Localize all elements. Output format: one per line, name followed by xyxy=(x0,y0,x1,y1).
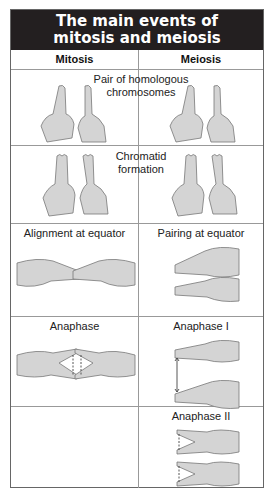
divider xyxy=(11,145,263,146)
title-line-1: The main events of xyxy=(11,13,263,30)
caption-anaphase-ii: Anaphase II xyxy=(139,410,263,423)
hands-single-finger-icon xyxy=(166,82,246,144)
hands-v-pairs-icon xyxy=(171,428,241,488)
caption-pairing-at-equator: Pairing at equator xyxy=(139,227,263,240)
hands-single-finger-icon xyxy=(37,82,117,144)
hands-separating-vertical-icon xyxy=(171,338,241,413)
divider xyxy=(11,69,263,70)
column-header-mitosis: Mitosis xyxy=(11,50,138,69)
title-line-2: mitosis and meiosis xyxy=(11,30,263,47)
divider xyxy=(11,223,263,224)
hands-two-fingers-icon xyxy=(166,150,246,222)
column-header-meiosis: Meiosis xyxy=(139,50,263,69)
caption-alignment-at-equator: Alignment at equator xyxy=(11,227,138,240)
hands-two-fingers-icon xyxy=(37,150,117,222)
caption-anaphase: Anaphase xyxy=(11,320,138,333)
hands-paired-icon xyxy=(171,245,241,310)
diagram-frame: The main events of mitosis and meiosis M… xyxy=(10,9,264,488)
hands-horizontal-aligned-icon xyxy=(15,255,139,295)
hands-v-separating-icon xyxy=(15,345,139,385)
divider xyxy=(11,316,263,317)
caption-anaphase-i: Anaphase I xyxy=(139,320,263,333)
diagram-title: The main events of mitosis and meiosis xyxy=(11,10,263,50)
